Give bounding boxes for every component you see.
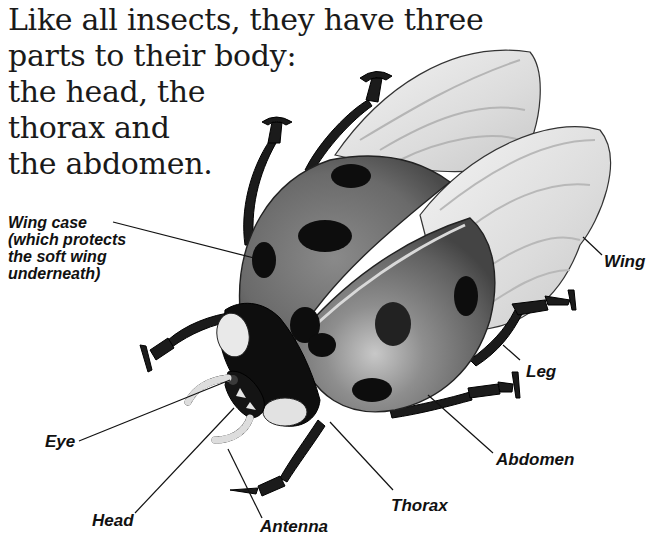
- ladybird-diagram: Like all insects, they have three parts …: [0, 0, 653, 537]
- leader-leg: [503, 345, 520, 360]
- leader-eye: [79, 380, 230, 441]
- label-thorax: Thorax: [391, 497, 448, 514]
- leader-antenna: [228, 449, 262, 518]
- label-abdomen: Abdomen: [496, 451, 574, 468]
- leader-thorax: [330, 422, 393, 490]
- label-line: Wing case: [8, 214, 126, 231]
- leader-wing-case: [113, 222, 254, 258]
- label-leg: Leg: [526, 363, 556, 380]
- leader-wing: [583, 237, 602, 255]
- leader-head: [135, 408, 234, 513]
- label-eye: Eye: [45, 433, 75, 450]
- label-line: the soft wing: [8, 248, 126, 265]
- label-head: Head: [92, 512, 134, 529]
- label-wing: Wing: [604, 253, 645, 270]
- label-line: underneath): [8, 265, 126, 282]
- label-wing-case: Wing case (which protects the soft wing …: [8, 214, 126, 282]
- label-line: (which protects: [8, 231, 126, 248]
- label-antenna: Antenna: [260, 518, 328, 535]
- leader-abdomen: [428, 395, 493, 453]
